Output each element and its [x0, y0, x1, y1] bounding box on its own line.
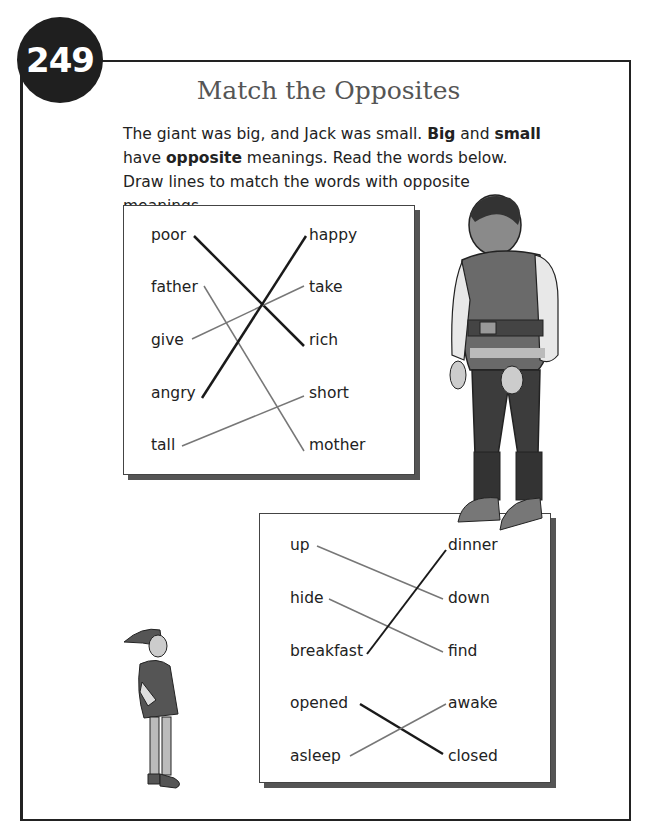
intro-bold-big: Big: [427, 125, 455, 143]
intro-bold-opposite: opposite: [166, 149, 242, 167]
word-right: short: [309, 384, 349, 402]
page-title: Match the Opposites: [0, 76, 657, 105]
intro-text: The giant was big, and Jack was small.: [123, 125, 427, 143]
word-right: happy: [309, 226, 357, 244]
word-right: find: [448, 642, 477, 660]
word-right: dinner: [448, 536, 498, 554]
word-right: closed: [448, 747, 498, 765]
word-left: up: [290, 536, 310, 554]
jack-illustration: [122, 622, 187, 792]
intro-text: and: [455, 125, 494, 143]
intro-bold-small: small: [494, 125, 540, 143]
word-right: rich: [309, 331, 338, 349]
match-box-2: up hide breakfast opened asleep dinner d…: [259, 513, 551, 783]
match-box-1: poor father give angry tall happy take r…: [123, 205, 415, 475]
word-right: down: [448, 589, 490, 607]
word-left: opened: [290, 694, 348, 712]
word-left: angry: [151, 384, 196, 402]
word-left: give: [151, 331, 184, 349]
word-left: asleep: [290, 747, 341, 765]
giant-illustration: [440, 190, 565, 535]
word-left: breakfast: [290, 642, 363, 660]
word-right: take: [309, 278, 343, 296]
intro-text: have: [123, 149, 166, 167]
word-left: hide: [290, 589, 324, 607]
word-left: poor: [151, 226, 186, 244]
word-left: tall: [151, 436, 175, 454]
word-left: father: [151, 278, 198, 296]
word-right: awake: [448, 694, 498, 712]
word-right: mother: [309, 436, 365, 454]
